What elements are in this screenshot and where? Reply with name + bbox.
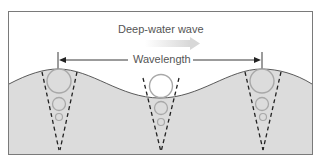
orbit-circle-large [47,69,71,93]
orbit-circle-large [250,69,274,93]
orbit-circle-medium [256,98,269,111]
orbit-circle-medium [53,98,66,111]
diagram-title: Deep-water wave [118,23,204,35]
orbit-circle-small [56,114,63,121]
orbit-circle-medium [155,102,168,115]
wavelength-label: Wavelength [131,53,193,65]
orbit-circle-small [158,119,165,126]
orbit-circle-large [150,75,173,98]
orbit-circle-small [260,114,267,121]
